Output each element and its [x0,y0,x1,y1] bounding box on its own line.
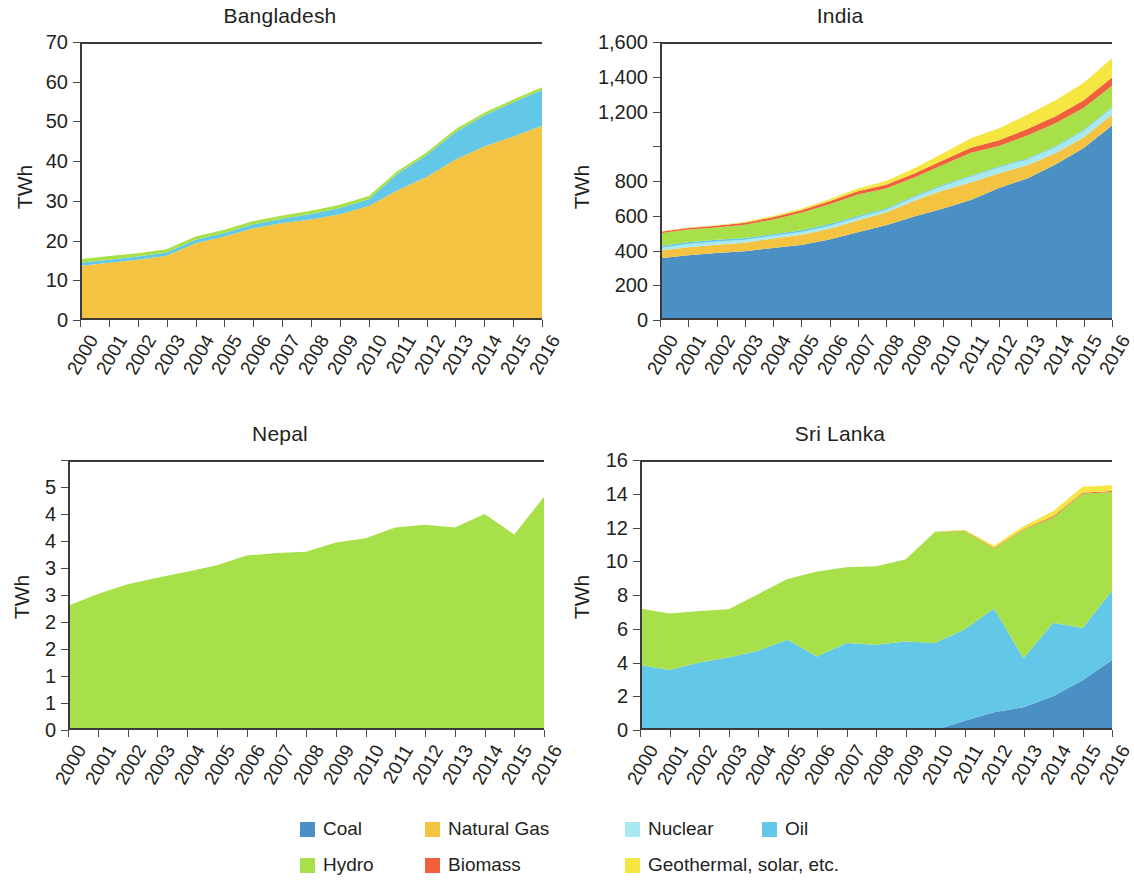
x-tick-mark [217,730,218,737]
y-tick-mark [61,487,68,488]
x-tick-mark [366,730,367,737]
x-tick-mark [68,730,69,737]
x-tick-mark [253,320,254,327]
x-tick-mark [1084,320,1085,327]
y-tick-mark [73,241,80,242]
x-tick-mark [247,730,248,737]
x-tick-mark [914,320,915,327]
y-tick-mark [653,320,660,321]
y-tick-mark [653,42,660,43]
panel-bangladesh: Bangladesh TWh 010203040506070 200020012… [0,0,560,415]
panel-title-bangladesh: Bangladesh [0,4,560,28]
y-tick-label: 10 [0,269,68,292]
y-tick-mark [73,161,80,162]
chart-legend: CoalNatural GasNuclearOil HydroBiomassGe… [0,818,1120,885]
x-tick-mark [336,730,337,737]
panel-india: India TWh 02004006008001,2001,4001,600 2… [560,0,1120,415]
y-tick-mark [653,112,660,113]
y-tick-mark [61,460,68,461]
y-tick-mark [653,251,660,252]
x-tick-mark [758,730,759,737]
x-tick-mark [425,730,426,737]
x-tick-mark [1053,730,1054,737]
y-tick-label: 4 [0,530,56,553]
y-tick-label: 600 [560,204,648,227]
x-tick-mark [773,320,774,327]
x-tick-mark [817,730,818,737]
y-tick-mark [61,676,68,677]
y-tick-mark [653,285,660,286]
x-tick-mark [729,730,730,737]
y-tick-label: 3 [0,557,56,580]
legend-item-biomass: Biomass [425,854,521,876]
x-tick-mark [1027,320,1028,327]
y-tick-mark [633,595,640,596]
y-tick-mark [653,181,660,182]
y-tick-mark [633,663,640,664]
x-tick-mark [542,320,543,327]
y-tick-label: 1,400 [560,65,648,88]
x-tick-mark [688,320,689,327]
x-tick-mark [369,320,370,327]
legend-item-oil: Oil [762,818,808,840]
plot-area-india [660,42,1112,320]
y-tick-mark [73,121,80,122]
y-tick-label: 2 [0,638,56,661]
y-tick-label: 10 [560,550,628,573]
legend-swatch-icon [425,858,440,873]
y-tick-label: 60 [0,70,68,93]
plot-area-nepal [68,460,544,730]
legend-swatch-icon [300,858,315,873]
x-tick-mark [128,730,129,737]
panel-title-india: India [560,4,1120,28]
x-tick-mark [801,320,802,327]
x-tick-mark [455,320,456,327]
legend-item-geothermal-solar-etc: Geothermal, solar, etc. [625,854,839,876]
y-tick-mark [61,622,68,623]
x-tick-mark [398,320,399,327]
x-tick-mark [788,730,789,737]
legend-row-2: HydroBiomassGeothermal, solar, etc. [0,854,1120,884]
y-tick-label: 20 [0,229,68,252]
x-tick-mark [138,320,139,327]
x-tick-mark [282,320,283,327]
x-tick-mark [717,320,718,327]
x-tick-mark [660,320,661,327]
legend-label: Oil [785,818,808,840]
y-tick-mark [633,696,640,697]
y-tick-label: 70 [0,31,68,54]
y-tick-mark [633,460,640,461]
x-tick-mark [999,320,1000,327]
x-tick-mark [830,320,831,327]
chart-grid: Bangladesh TWh 010203040506070 200020012… [0,0,1120,820]
x-tick-mark [699,730,700,737]
y-tick-mark [653,77,660,78]
y-tick-mark [61,514,68,515]
x-tick-mark [1056,320,1057,327]
x-tick-mark [98,730,99,737]
x-tick-mark [395,730,396,737]
y-tick-mark [61,541,68,542]
y-tick-label: 1 [0,692,56,715]
y-tick-label: 800 [560,170,648,193]
legend-label: Nuclear [648,818,713,840]
x-tick-mark [485,730,486,737]
x-tick-mark [484,320,485,327]
y-tick-label: 8 [560,584,628,607]
y-tick-mark [61,730,68,731]
y-tick-mark [73,320,80,321]
y-tick-mark [73,42,80,43]
y-tick-label: 0 [560,719,628,742]
y-tick-label: 30 [0,189,68,212]
y-tick-label: 4 [560,651,628,674]
y-tick-label: 16 [560,449,628,472]
x-tick-mark [1112,320,1113,327]
y-tick-label: 3 [0,584,56,607]
y-tick-mark [73,280,80,281]
x-tick-mark [427,320,428,327]
x-tick-mark [513,320,514,327]
x-tick-mark [187,730,188,737]
y-tick-mark [61,568,68,569]
x-tick-mark [306,730,307,737]
x-tick-mark [514,730,515,737]
